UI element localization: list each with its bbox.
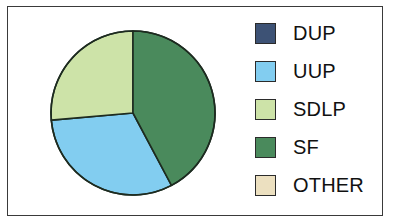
legend-label-sdlp: SDLP <box>293 99 346 119</box>
pie-slice-sdlp <box>51 31 133 120</box>
legend-item-other: OTHER <box>255 166 385 204</box>
chart-legend: DUP UUP SDLP SF OTHER <box>255 14 385 210</box>
legend-item-sf: SF <box>255 128 385 166</box>
pie-chart-figure: DUP UUP SDLP SF OTHER <box>0 0 398 223</box>
legend-label-uup: UUP <box>293 61 336 81</box>
legend-label-dup: DUP <box>293 23 336 43</box>
legend-label-sf: SF <box>293 137 319 157</box>
legend-item-sdlp: SDLP <box>255 90 385 128</box>
legend-item-uup: UUP <box>255 52 385 90</box>
legend-swatch-sdlp <box>255 99 276 120</box>
legend-label-other: OTHER <box>293 175 364 195</box>
legend-swatch-dup <box>255 23 276 44</box>
legend-swatch-sf <box>255 137 276 158</box>
legend-item-dup: DUP <box>255 14 385 52</box>
plot-area <box>0 0 260 223</box>
pie-chart <box>44 24 222 202</box>
pie-slice-group <box>51 31 215 195</box>
legend-swatch-uup <box>255 61 276 82</box>
legend-swatch-other <box>255 175 276 196</box>
